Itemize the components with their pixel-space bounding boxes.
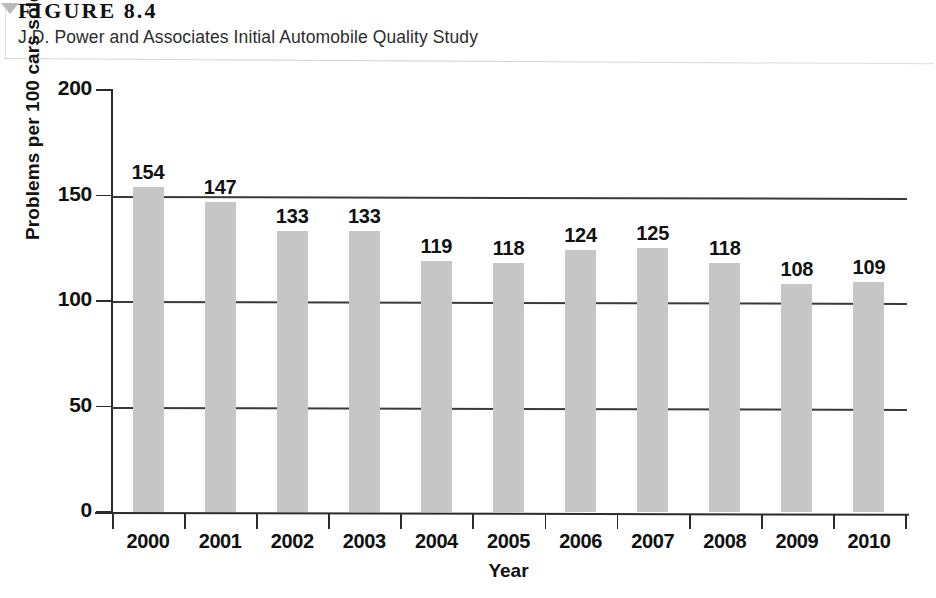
bar-group: 109	[853, 90, 884, 512]
x-axis-tick	[184, 514, 186, 529]
y-axis-tick	[96, 89, 113, 91]
bar-value-label: 118	[690, 237, 760, 260]
y-axis-tick	[96, 511, 113, 513]
bar-value-label: 133	[329, 205, 399, 228]
bar	[277, 231, 308, 512]
bar-value-label: 119	[401, 235, 471, 258]
bar-group: 108	[781, 90, 812, 512]
bar-group: 133	[349, 90, 380, 512]
bar-group: 118	[493, 90, 524, 512]
bar	[205, 202, 236, 512]
bar-value-label: 154	[113, 161, 183, 184]
x-axis-tick	[761, 514, 763, 529]
y-axis-tick-label: 0	[36, 498, 92, 522]
bar-group: 118	[709, 90, 740, 512]
bar	[565, 250, 596, 512]
x-axis-tick	[545, 514, 547, 529]
bar-value-label: 147	[185, 176, 255, 199]
x-axis-tick	[905, 514, 907, 529]
bar-value-label: 118	[474, 237, 544, 260]
x-axis-tick	[689, 514, 691, 529]
plot-area: 154147133133119118124125118108109	[112, 90, 905, 512]
bar	[133, 187, 164, 512]
bar	[349, 231, 380, 512]
y-axis-tick-label: 150	[36, 182, 92, 206]
figure-left-edge-rule	[5, 8, 6, 60]
x-axis-tick-label: 2005	[469, 530, 549, 553]
x-axis-tick	[617, 514, 619, 529]
x-axis-tick-label: 2000	[108, 530, 188, 553]
x-axis-tick	[112, 514, 114, 529]
x-axis-tick	[256, 514, 258, 529]
x-axis-tick	[328, 514, 330, 529]
bar-value-label: 124	[546, 224, 616, 247]
figure-header: FIGURE 8.4 J.D. Power and Associates Ini…	[0, 0, 936, 62]
bar-value-label: 109	[834, 256, 904, 279]
x-axis-tick-label: 2004	[396, 530, 476, 553]
x-axis-tick-label: 2008	[685, 530, 765, 553]
x-axis-tick-label: 2009	[757, 530, 837, 553]
x-axis-tick-label: 2002	[252, 530, 332, 553]
bar-group: 147	[205, 90, 236, 512]
x-axis-tick-label: 2001	[180, 530, 260, 553]
x-axis-title: Year	[112, 560, 905, 582]
figure-marker-triangle-icon	[1, 3, 19, 14]
x-axis-tick-label: 2006	[541, 530, 621, 553]
x-axis-tick	[400, 514, 402, 529]
bar-value-label: 125	[618, 222, 688, 245]
bar-group: 154	[133, 90, 164, 512]
bar	[637, 248, 668, 512]
x-axis-line	[95, 512, 909, 516]
x-axis-tick-label: 2010	[829, 530, 909, 553]
bar	[781, 284, 812, 512]
bar-group: 119	[421, 90, 452, 512]
bar	[421, 261, 452, 512]
bar-group: 125	[637, 90, 668, 512]
x-axis-tick	[472, 514, 474, 529]
y-axis-tick-label: 50	[36, 393, 92, 417]
y-axis-tick	[96, 300, 113, 302]
bar-chart: Problems per 100 cars sold 050100150200 …	[0, 62, 936, 598]
bar-group: 133	[277, 90, 308, 512]
bar-value-label: 108	[762, 258, 832, 281]
x-axis-tick-label: 2007	[613, 530, 693, 553]
bar-value-label: 133	[257, 205, 327, 228]
bar	[853, 282, 884, 512]
y-axis-tick-label: 200	[36, 76, 92, 100]
figure-subtitle: J.D. Power and Associates Initial Automo…	[18, 27, 478, 48]
bar	[709, 263, 740, 512]
bar-group: 124	[565, 90, 596, 512]
bar	[493, 263, 524, 512]
y-axis-tick	[96, 195, 113, 197]
y-axis-tick	[96, 406, 113, 408]
x-axis-tick-label: 2003	[324, 530, 404, 553]
x-axis-tick	[833, 514, 835, 529]
y-axis-tick-label: 100	[36, 287, 92, 311]
